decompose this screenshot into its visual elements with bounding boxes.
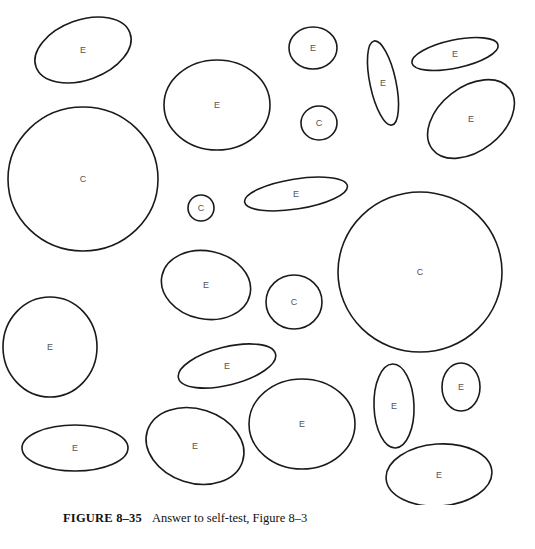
shape-label: E [452,49,458,59]
circle-shape: C [8,107,158,251]
ellipse-shape: E [289,27,337,69]
shape-label: C [316,118,323,128]
circle-shape: C [338,192,502,352]
ellipse-shape: E [413,64,530,175]
shape-diagram: EECCECEEEEECCEEEEEEEE [0,0,535,505]
shape-label: E [80,45,86,55]
shape-label: E [310,43,316,53]
circle-shape: C [266,275,322,329]
ellipse-shape: E [155,242,257,327]
ellipse-shape: E [442,363,480,411]
ellipse-shape: E [361,38,404,128]
ellipse-shape: E [164,60,270,150]
circle-shape: C [301,106,337,140]
shape-label: E [299,419,305,429]
shape-label: E [380,78,386,88]
ellipse-shape: E [242,171,349,217]
ellipse-shape: E [249,379,355,469]
shape-label: C [417,267,424,277]
shape-label: C [291,297,298,307]
shape-label: E [203,280,209,290]
shape-label: E [436,470,442,480]
figure-number: FIGURE 8–35 [63,511,142,525]
shape-label: E [47,342,53,352]
ellipse-shape: E [409,31,501,77]
shape-label: E [192,441,198,451]
shape-label: E [458,382,464,392]
shape-label: C [198,203,205,213]
shape-label: E [72,443,78,453]
shape-label: E [391,401,397,411]
shape-label: E [224,361,230,371]
shape-label: E [214,100,220,110]
ellipse-shape: E [136,395,254,496]
ellipse-shape: E [384,440,494,505]
figure-caption: FIGURE 8–35Answer to self-test, Figure 8… [63,511,307,526]
shape-label: E [468,114,474,124]
shape-label: C [80,174,87,184]
caption-text: Answer to self-test, Figure 8–3 [152,511,307,525]
ellipse-shape: E [373,363,416,448]
shape-label: E [293,189,299,199]
ellipse-shape: E [22,425,128,471]
circle-shape: C [188,195,214,221]
ellipse-shape: E [3,297,97,397]
ellipse-shape: E [174,335,280,396]
ellipse-shape: E [26,5,140,96]
